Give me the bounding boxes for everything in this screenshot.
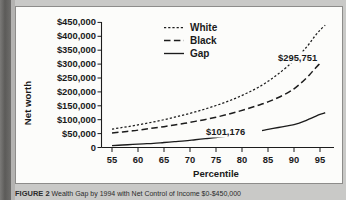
y-tick-label: $50,000 [62, 128, 96, 139]
y-axis-ticks [98, 22, 102, 147]
x-tick-label: 75 [211, 154, 221, 165]
y-axis-tick-labels: 0 $50,000 $100,000 $150,000 $200,000 $25… [57, 16, 96, 152]
x-axis-ticks [112, 148, 320, 153]
scanned-page-background: Net worth 0 $50,000 $100,000 $150,000 $2… [0, 0, 346, 200]
y-tick-label: $250,000 [57, 72, 96, 83]
series-line-black [112, 59, 325, 134]
y-axis-title: Net worth [22, 81, 33, 125]
chart-legend: White Black Gap [164, 22, 218, 59]
annotation-gap-series: $101,176 [204, 126, 262, 138]
x-tick-label: 60 [133, 154, 143, 165]
legend-label-black: Black [190, 35, 217, 46]
y-tick-label: $350,000 [57, 44, 96, 55]
y-tick-label: $100,000 [57, 114, 96, 125]
annotation-label: $295,751 [278, 52, 317, 63]
x-tick-label: 55 [107, 154, 117, 165]
y-tick-label: $450,000 [57, 16, 96, 27]
x-tick-label: 80 [237, 154, 247, 165]
figure-caption-text: Wealth Gap by 1994 with Net Control of I… [52, 190, 241, 197]
annotation-black-endpoint: $295,751 [276, 52, 336, 64]
x-axis-tick-labels: 55 60 65 70 75 80 85 90 95 [107, 154, 325, 165]
figure-caption-label: FIGURE 2 [15, 189, 50, 198]
x-axis-title: Percentile [193, 168, 239, 179]
net-worth-by-percentile-chart: Net worth 0 $50,000 $100,000 $150,000 $2… [16, 7, 342, 183]
y-tick-label: $300,000 [57, 58, 96, 69]
legend-label-gap: Gap [190, 48, 209, 59]
y-tick-label: $150,000 [57, 100, 96, 111]
figure-panel: Net worth 0 $50,000 $100,000 $150,000 $2… [15, 6, 343, 184]
book-gutter-shadow [0, 0, 11, 200]
figure-caption: FIGURE 2 Wealth Gap by 1994 with Net Con… [15, 188, 343, 200]
y-tick-label: 0 [91, 142, 96, 153]
legend-label-white: White [190, 22, 218, 33]
series-line-white [112, 25, 325, 129]
y-tick-label: $200,000 [57, 86, 96, 97]
x-tick-label: 90 [289, 154, 299, 165]
x-tick-label: 65 [159, 154, 169, 165]
y-tick-label: $400,000 [57, 30, 96, 41]
annotation-label: $101,176 [206, 126, 245, 137]
x-tick-label: 70 [185, 154, 195, 165]
x-tick-label: 85 [263, 154, 273, 165]
x-tick-label: 95 [315, 154, 325, 165]
